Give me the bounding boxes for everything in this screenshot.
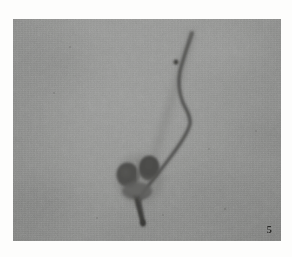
specimen-cell <box>13 19 281 241</box>
photomicrograph-plate: 5 <box>13 19 281 241</box>
figure-page: 5 <box>0 0 292 257</box>
debris-speck <box>174 59 179 64</box>
figure-number-label: 5 <box>267 224 273 235</box>
